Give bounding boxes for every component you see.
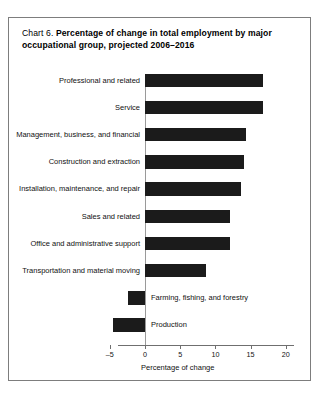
bar-category-label: Construction and extraction [49,157,140,166]
plot-area: Professional and relatedServiceManagemen… [8,68,319,348]
chart-title-text: Percentage of change in total employment… [22,28,272,50]
bar-category-label: Transportation and material moving [22,266,140,275]
bar [145,264,206,278]
x-tick [145,345,146,349]
bar-row: Management, business, and financial [8,122,319,149]
bar-row: Farming, fishing, and forestry [8,286,319,313]
bar-category-label: Professional and related [59,76,140,85]
x-tick-label: 10 [211,350,219,359]
bar [145,182,241,196]
bar-row: Sales and related [8,204,319,231]
bar [145,210,230,224]
bar [145,101,263,115]
x-axis-label: Percentage of change [141,363,214,372]
bar-row: Professional and related [8,68,319,95]
x-tick [286,345,287,349]
x-tick [110,345,111,349]
x-tick [251,345,252,349]
x-tick-label: –5 [106,350,114,359]
bar-category-label: Service [115,103,140,112]
bar-category-label: Sales and related [82,212,140,221]
bar [145,74,263,88]
bar [145,128,246,142]
chart-title: Chart 6. Percentage of change in total e… [22,28,297,51]
bar-row: Installation, maintenance, and repair [8,177,319,204]
bar [145,155,244,169]
bar [128,291,145,305]
bar-category-label: Office and administrative support [30,239,140,248]
x-tick-label: 0 [143,350,147,359]
bar [113,318,145,332]
bar-category-label: Farming, fishing, and forestry [151,293,248,302]
x-tick [215,345,216,349]
bar-row: Office and administrative support [8,231,319,258]
chart-number: Chart 6. [22,28,53,38]
bar-row: Production [8,313,319,340]
bar-row: Service [8,95,319,122]
bar-category-label: Installation, maintenance, and repair [19,184,140,193]
x-axis: –505101520 Percentage of change [8,345,319,385]
x-tick-label: 20 [282,350,290,359]
bar-row: Construction and extraction [8,150,319,177]
bar-category-label: Production [151,320,187,329]
bar [145,237,230,251]
bar-category-label: Management, business, and financial [16,130,140,139]
bar-row: Transportation and material moving [8,258,319,285]
bar-rows: Professional and relatedServiceManagemen… [8,68,319,342]
chart-figure: Chart 6. Percentage of change in total e… [0,0,327,398]
x-tick [180,345,181,349]
x-tick-label: 15 [247,350,255,359]
x-tick-label: 5 [178,350,182,359]
